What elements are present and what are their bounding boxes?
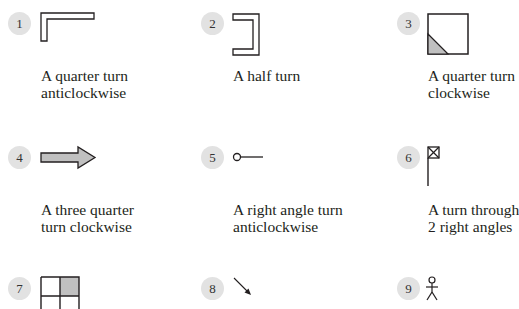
caption-line-2: anticlockwise: [233, 218, 318, 235]
number-badge: 5: [201, 146, 224, 169]
number-badge: 2: [201, 12, 224, 35]
shaded-square-icon: [428, 14, 468, 54]
caption-line-1: A three quarter: [41, 201, 134, 218]
number-badge: 4: [8, 146, 31, 169]
caption-line-1: A quarter turn: [428, 67, 515, 84]
l-shape-icon: [41, 13, 94, 41]
caption-line-1: A quarter turn: [41, 67, 128, 84]
number-badge: 6: [397, 146, 420, 169]
caption-line-1: A turn through: [428, 201, 519, 218]
pin-line-icon: [234, 154, 264, 161]
caption-line-1: A right angle turn: [233, 201, 343, 218]
diagonal-arrow-icon: [234, 278, 251, 295]
number-badge: 3: [397, 12, 420, 35]
grid-shaded-icon: [41, 277, 79, 309]
number-badge: 1: [8, 12, 31, 35]
arrow-right-icon: [41, 147, 95, 168]
caption-line-1: A half turn: [233, 67, 300, 84]
flag-icon: [428, 147, 439, 186]
stick-figure-icon: [426, 277, 438, 300]
caption-line-2: clockwise: [428, 84, 490, 101]
caption-line-2: turn clockwise: [41, 218, 132, 235]
bracket-shape-icon: [233, 14, 259, 55]
number-badge: 8: [201, 277, 224, 300]
number-badge: 7: [8, 277, 31, 300]
number-badge: 9: [397, 277, 420, 300]
caption-line-2: anticlockwise: [41, 84, 126, 101]
caption-line-2: 2 right angles: [428, 218, 512, 235]
